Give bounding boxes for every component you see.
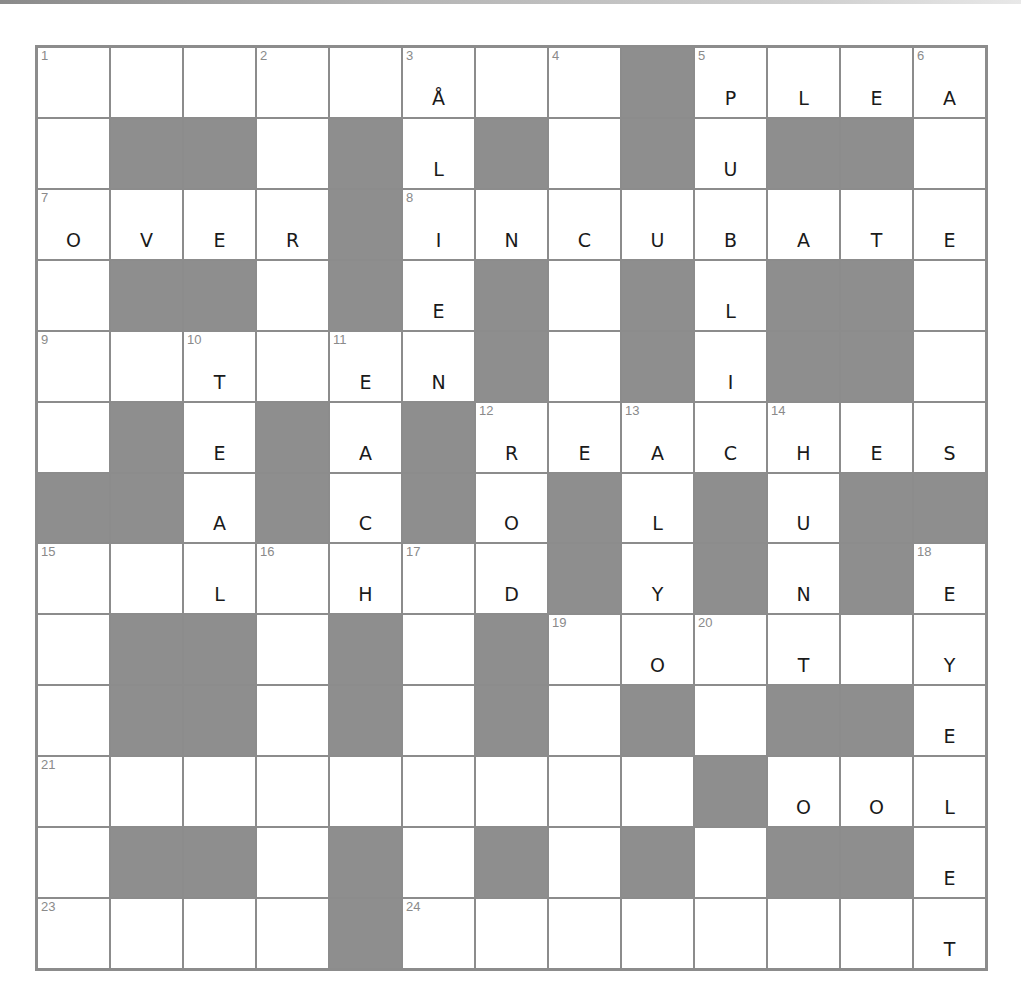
- grid-cell[interactable]: [257, 899, 328, 968]
- grid-cell[interactable]: N: [403, 332, 474, 401]
- grid-cell[interactable]: A: [184, 474, 255, 543]
- grid-cell[interactable]: [695, 899, 766, 968]
- grid-cell[interactable]: [549, 757, 620, 826]
- grid-cell[interactable]: T: [914, 899, 985, 968]
- grid-cell[interactable]: 24: [403, 899, 474, 968]
- grid-cell[interactable]: [476, 757, 547, 826]
- grid-cell[interactable]: [257, 757, 328, 826]
- grid-cell[interactable]: [549, 686, 620, 755]
- grid-cell[interactable]: R: [257, 190, 328, 259]
- grid-cell[interactable]: 1: [38, 48, 109, 117]
- grid-cell[interactable]: H: [330, 544, 401, 613]
- grid-cell[interactable]: [403, 686, 474, 755]
- grid-cell[interactable]: 4: [549, 48, 620, 117]
- grid-cell[interactable]: L: [622, 474, 693, 543]
- grid-cell[interactable]: A: [768, 190, 839, 259]
- grid-cell[interactable]: [38, 828, 109, 897]
- grid-cell[interactable]: L: [403, 119, 474, 188]
- grid-cell[interactable]: O: [622, 615, 693, 684]
- grid-cell[interactable]: 7O: [38, 190, 109, 259]
- grid-cell[interactable]: [184, 899, 255, 968]
- grid-cell[interactable]: E: [184, 190, 255, 259]
- grid-cell[interactable]: [403, 615, 474, 684]
- grid-cell[interactable]: [476, 899, 547, 968]
- grid-cell[interactable]: O: [841, 757, 912, 826]
- grid-cell[interactable]: I: [695, 332, 766, 401]
- grid-cell[interactable]: [184, 757, 255, 826]
- grid-cell[interactable]: 23: [38, 899, 109, 968]
- grid-cell[interactable]: 2: [257, 48, 328, 117]
- grid-cell[interactable]: [257, 828, 328, 897]
- grid-cell[interactable]: [257, 261, 328, 330]
- grid-cell[interactable]: [38, 403, 109, 472]
- grid-cell[interactable]: [549, 119, 620, 188]
- grid-cell[interactable]: 5P: [695, 48, 766, 117]
- grid-cell[interactable]: O: [476, 474, 547, 543]
- grid-cell[interactable]: [38, 615, 109, 684]
- grid-cell[interactable]: [549, 261, 620, 330]
- grid-cell[interactable]: 11E: [330, 332, 401, 401]
- grid-cell[interactable]: [695, 686, 766, 755]
- grid-cell[interactable]: 15: [38, 544, 109, 613]
- grid-cell[interactable]: D: [476, 544, 547, 613]
- grid-cell[interactable]: 18E: [914, 544, 985, 613]
- grid-cell[interactable]: N: [476, 190, 547, 259]
- grid-cell[interactable]: [184, 48, 255, 117]
- grid-cell[interactable]: Y: [914, 615, 985, 684]
- grid-cell[interactable]: [38, 261, 109, 330]
- grid-cell[interactable]: E: [549, 403, 620, 472]
- grid-cell[interactable]: 13A: [622, 403, 693, 472]
- grid-cell[interactable]: C: [549, 190, 620, 259]
- grid-cell[interactable]: B: [695, 190, 766, 259]
- grid-cell[interactable]: 16: [257, 544, 328, 613]
- grid-cell[interactable]: S: [914, 403, 985, 472]
- grid-cell[interactable]: [768, 899, 839, 968]
- grid-cell[interactable]: [257, 686, 328, 755]
- grid-cell[interactable]: [549, 332, 620, 401]
- grid-cell[interactable]: [622, 757, 693, 826]
- grid-cell[interactable]: C: [695, 403, 766, 472]
- grid-cell[interactable]: L: [184, 544, 255, 613]
- grid-cell[interactable]: [695, 828, 766, 897]
- grid-cell[interactable]: [330, 48, 401, 117]
- grid-cell[interactable]: 21: [38, 757, 109, 826]
- grid-cell[interactable]: [330, 757, 401, 826]
- grid-cell[interactable]: [38, 686, 109, 755]
- grid-cell[interactable]: [257, 332, 328, 401]
- grid-cell[interactable]: L: [768, 48, 839, 117]
- grid-cell[interactable]: V: [111, 190, 182, 259]
- grid-cell[interactable]: [257, 615, 328, 684]
- grid-cell[interactable]: 3Å: [403, 48, 474, 117]
- grid-cell[interactable]: U: [622, 190, 693, 259]
- grid-cell[interactable]: [111, 544, 182, 613]
- grid-cell[interactable]: [549, 828, 620, 897]
- grid-cell[interactable]: 17: [403, 544, 474, 613]
- grid-cell[interactable]: E: [914, 190, 985, 259]
- grid-cell[interactable]: [476, 48, 547, 117]
- grid-cell[interactable]: 19: [549, 615, 620, 684]
- grid-cell[interactable]: C: [330, 474, 401, 543]
- grid-cell[interactable]: N: [768, 544, 839, 613]
- grid-cell[interactable]: O: [768, 757, 839, 826]
- grid-cell[interactable]: E: [841, 403, 912, 472]
- grid-cell[interactable]: T: [768, 615, 839, 684]
- grid-cell[interactable]: [111, 48, 182, 117]
- grid-cell[interactable]: Y: [622, 544, 693, 613]
- grid-cell[interactable]: 8I: [403, 190, 474, 259]
- grid-cell[interactable]: A: [330, 403, 401, 472]
- grid-cell[interactable]: [549, 899, 620, 968]
- grid-cell[interactable]: [111, 899, 182, 968]
- grid-cell[interactable]: 10T: [184, 332, 255, 401]
- grid-cell[interactable]: [403, 757, 474, 826]
- grid-cell[interactable]: U: [695, 119, 766, 188]
- grid-cell[interactable]: [914, 119, 985, 188]
- grid-cell[interactable]: L: [914, 757, 985, 826]
- grid-cell[interactable]: E: [914, 686, 985, 755]
- grid-cell[interactable]: E: [403, 261, 474, 330]
- grid-cell[interactable]: 6A: [914, 48, 985, 117]
- grid-cell[interactable]: [622, 899, 693, 968]
- grid-cell[interactable]: 9: [38, 332, 109, 401]
- grid-cell[interactable]: E: [841, 48, 912, 117]
- grid-cell[interactable]: 14H: [768, 403, 839, 472]
- grid-cell[interactable]: E: [184, 403, 255, 472]
